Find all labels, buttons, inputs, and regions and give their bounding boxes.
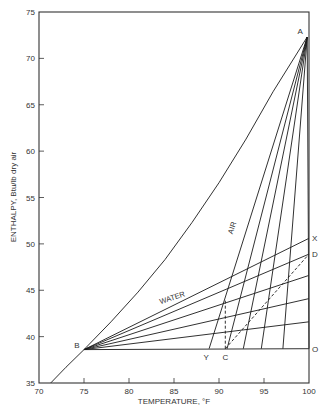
point-label-a: A	[298, 27, 304, 36]
y-tick-label: 70	[26, 54, 35, 63]
air-line-3-line	[243, 37, 307, 349]
y-tick-label: 40	[26, 333, 35, 342]
y-tick-label: 45	[26, 286, 35, 295]
axes-frame	[39, 12, 309, 383]
saturation-curve-line	[51, 37, 308, 383]
x-tick-label: 90	[215, 387, 224, 396]
y-tick-label: 75	[26, 8, 35, 17]
water-line-3-line	[84, 275, 309, 349]
x-tick-label: 95	[260, 387, 269, 396]
y-axis-title: ENTHALPY, Btu/lb dry air	[9, 151, 18, 242]
axis-ticks: 707580859095100354045505560657075	[26, 8, 316, 396]
point-label-b: B	[74, 341, 79, 350]
plot-frame	[39, 12, 309, 383]
x-axis-title: TEMPERATURE, °F	[138, 397, 211, 406]
point-label-x: X	[312, 234, 318, 243]
x-tick-label: 80	[125, 387, 134, 396]
x-tick-label: 70	[35, 387, 44, 396]
y-tick-label: 60	[26, 147, 35, 156]
point-label-o: O	[312, 345, 318, 354]
point-label-y: Y	[203, 353, 209, 362]
operating-line-b-o-line	[84, 349, 309, 350]
cooling-tower-enthalpy-chart: 707580859095100354045505560657075 ABCDOX…	[0, 0, 327, 418]
point-label-c: C	[222, 353, 228, 362]
water-line-4-line	[84, 299, 309, 350]
y-tick-label: 65	[26, 101, 35, 110]
air-line-label: AIR	[226, 220, 239, 235]
y-tick-label: 35	[26, 379, 35, 388]
y-tick-label: 50	[26, 240, 35, 249]
plot-lines	[51, 37, 309, 383]
x-tick-label: 75	[80, 387, 89, 396]
x-tick-label: 100	[302, 387, 316, 396]
water-line-label: WATER	[158, 289, 186, 306]
x-tick-label: 85	[170, 387, 179, 396]
point-label-d: D	[312, 250, 318, 259]
air-line-4-line	[261, 37, 307, 349]
y-tick-label: 55	[26, 194, 35, 203]
